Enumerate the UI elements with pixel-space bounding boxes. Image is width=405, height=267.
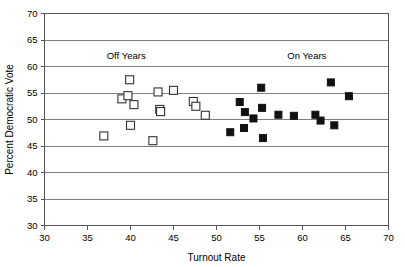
data-point-0-5 (130, 101, 138, 109)
y-tick-label-65: 65 (27, 34, 38, 45)
x-axis-ticks: 303540455055606570 (39, 226, 394, 243)
series-off-years (100, 76, 209, 145)
y-tick-label-35: 35 (27, 193, 38, 204)
data-point-1-9 (290, 112, 297, 119)
series-annotations: Off YearsOn Years (107, 50, 327, 61)
data-point-0-2 (124, 92, 132, 100)
gridlines-group (45, 14, 389, 226)
data-point-0-0 (100, 132, 108, 140)
x-tick-label-50: 50 (211, 232, 222, 243)
y-tick-label-40: 40 (27, 167, 38, 178)
data-point-1-13 (331, 122, 338, 129)
data-point-1-11 (317, 117, 324, 124)
data-point-1-8 (275, 111, 282, 118)
data-point-1-1 (236, 99, 243, 106)
data-point-0-13 (201, 111, 209, 119)
data-point-0-3 (126, 76, 134, 84)
y-tick-label-55: 55 (27, 87, 38, 98)
x-tick-label-45: 45 (168, 232, 179, 243)
data-point-0-10 (170, 86, 178, 94)
x-axis-title: Turnout Rate (188, 252, 246, 263)
y-tick-label-50: 50 (27, 114, 38, 125)
data-point-0-7 (154, 88, 162, 96)
x-tick-label-40: 40 (125, 232, 136, 243)
data-point-0-9 (157, 108, 165, 116)
x-tick-label-30: 30 (39, 232, 50, 243)
scatter-chart-figure: 303540455055606570303540455055606570Turn… (0, 0, 405, 267)
y-axis-title: Percent Democratic Vote (4, 64, 15, 175)
data-point-1-3 (241, 109, 248, 116)
data-point-1-5 (258, 84, 265, 91)
x-tick-label-35: 35 (82, 232, 93, 243)
chart-canvas: 303540455055606570303540455055606570Turn… (0, 0, 405, 267)
series-on-years (227, 79, 353, 142)
data-point-1-0 (227, 129, 234, 136)
x-tick-label-65: 65 (340, 232, 351, 243)
annotation-off-years: Off Years (107, 50, 146, 61)
annotation-on-years: On Years (287, 50, 326, 61)
data-point-0-4 (127, 121, 135, 129)
x-tick-label-55: 55 (254, 232, 265, 243)
y-axis-ticks: 303540455055606570 (27, 8, 45, 231)
data-point-1-12 (327, 79, 334, 86)
data-point-1-6 (259, 104, 266, 111)
data-point-1-2 (241, 124, 248, 131)
data-point-1-7 (259, 135, 266, 142)
y-tick-label-70: 70 (27, 8, 38, 19)
y-tick-label-60: 60 (27, 61, 38, 72)
data-point-0-6 (149, 137, 157, 145)
x-tick-label-60: 60 (297, 232, 308, 243)
data-point-0-12 (192, 102, 200, 110)
x-tick-label-70: 70 (383, 232, 394, 243)
data-point-1-14 (345, 93, 352, 100)
y-tick-label-45: 45 (27, 140, 38, 151)
y-tick-label-30: 30 (27, 220, 38, 231)
data-point-1-4 (250, 115, 257, 122)
